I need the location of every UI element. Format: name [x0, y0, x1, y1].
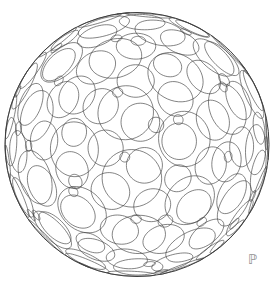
surface-circle-pentagon-site-circles: [165, 165, 191, 192]
surface-circle-vertex-site-circles: [114, 259, 163, 275]
surface-circle-vertex-site-circles: [226, 200, 253, 236]
surface-circle-hexagon-site-circles: [78, 16, 129, 38]
surface-circle-vertex-site-circles: [43, 49, 76, 81]
surface-circle-hexagon-site-circles: [107, 271, 155, 276]
surface-circle-pentagon-site-circles: [196, 240, 224, 260]
surface-circle-hexagon-site-circles: [148, 53, 203, 102]
surface-circle-vertex-site-circles: [112, 215, 165, 253]
surface-circle-vertex-site-circles: [5, 95, 16, 139]
surface-circle-hexagon-site-circles: [76, 51, 115, 84]
surface-circle-vertex-site-circles: [162, 123, 197, 159]
surface-circle-vertex-site-circles: [169, 18, 210, 37]
surface-circle-edge-site-circles: [131, 36, 146, 45]
figure-canvas: ℙ: [0, 0, 278, 288]
surface-circle-vertex-site-circles: [243, 70, 263, 110]
surface-circle-vertex-site-circles: [30, 121, 57, 160]
surface-circle-vertex-site-circles: [195, 147, 226, 184]
surface-circle-vertex-site-circles: [78, 25, 117, 48]
surface-circle-vertex-site-circles: [187, 60, 221, 93]
surface-circle-hexagon-site-circles: [91, 173, 130, 210]
surface-circle-vertex-site-circles: [246, 125, 266, 175]
watermark-symbol: ℙ: [248, 253, 257, 266]
surface-circle-vertex-site-circles: [212, 36, 245, 69]
surface-circle-edge-site-circles: [131, 215, 141, 224]
surface-circle-pentagon-site-circles: [154, 54, 182, 77]
surface-circle-vertex-site-circles: [158, 82, 193, 117]
surface-circle-vertex-site-circles: [61, 195, 95, 228]
surface-circle-pentagon-site-circles: [62, 118, 87, 146]
surface-circle-pentagon-site-circles: [176, 20, 209, 37]
surface-circle-edge-site-circles: [113, 88, 123, 97]
surface-circle-vertex-site-circles: [20, 52, 47, 88]
surface-circle-edge-site-circles: [180, 29, 191, 35]
surface-circle-vertex-site-circles: [50, 122, 98, 177]
surface-circle-vertex-site-circles: [189, 219, 224, 249]
surface-circle-hexagon-site-circles: [143, 224, 184, 253]
sphere-circle-packing: [0, 0, 278, 288]
surface-circle-vertex-site-circles: [126, 148, 162, 184]
surface-circle-vertex-site-circles: [193, 39, 234, 76]
surface-circle-hexagon-site-circles: [18, 83, 43, 125]
surface-circle-edge-site-circles: [148, 117, 163, 132]
surface-circle-vertex-site-circles: [135, 20, 185, 46]
surface-circle-vertex-site-circles: [56, 152, 89, 189]
surface-circle-hexagon-site-circles: [240, 71, 264, 119]
surface-circle-vertex-site-circles: [98, 86, 154, 140]
surface-circle-vertex-site-circles: [230, 127, 254, 167]
surface-circle-pentagon-site-circles: [76, 233, 105, 253]
surface-circle-vertex-site-circles: [88, 130, 123, 166]
surface-circle-vertex-site-circles: [39, 212, 71, 244]
surface-circle-hexagon-site-circles: [196, 100, 229, 140]
